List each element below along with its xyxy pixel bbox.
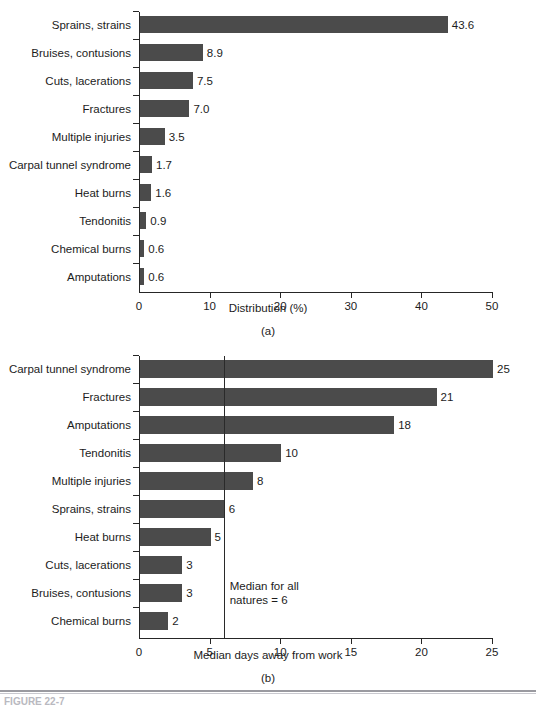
x-axis-tick [351, 639, 352, 644]
category-label: Cuts, lacerations [0, 559, 131, 571]
y-axis-tick [133, 39, 139, 40]
panel-caption-a: (a) [0, 325, 536, 337]
bar [140, 44, 203, 61]
y-axis-tick [133, 579, 139, 580]
category-label: Chemical burns [0, 615, 131, 627]
x-axis-tick [492, 293, 493, 298]
bar [140, 16, 448, 33]
bar [140, 156, 152, 173]
bar [140, 612, 168, 630]
category-label: Fractures [0, 103, 131, 115]
y-axis-tick [133, 383, 139, 384]
x-axis-line [139, 638, 493, 639]
x-axis-tick [351, 293, 352, 298]
y-axis-tick [133, 467, 139, 468]
figure-22-7: Sprains, strains43.6Bruises, contusions8… [0, 0, 536, 705]
bar-value-label: 1.6 [155, 187, 171, 199]
category-label: Heat burns [0, 187, 131, 199]
bar [140, 416, 394, 434]
bar [140, 388, 437, 406]
bar [140, 128, 165, 145]
bar [140, 184, 151, 201]
bar [140, 500, 225, 518]
bar [140, 444, 281, 462]
y-axis-tick [133, 11, 139, 12]
y-axis-tick [133, 551, 139, 552]
y-axis-tick [133, 495, 139, 496]
y-axis-tick [133, 123, 139, 124]
category-label: Fractures [0, 391, 131, 403]
y-axis-tick [133, 235, 139, 236]
bar-value-label: 1.7 [156, 159, 172, 171]
category-label: Carpal tunnel syndrome [0, 159, 131, 171]
bar-value-label: 25 [497, 363, 510, 375]
bar [140, 240, 144, 257]
category-label: Heat burns [0, 531, 131, 543]
bar-value-label: 18 [398, 419, 411, 431]
y-axis-tick [133, 179, 139, 180]
category-label: Amputations [0, 419, 131, 431]
y-axis-tick [133, 607, 139, 608]
x-axis-line [139, 292, 493, 293]
figure-divider-rule-thin [0, 693, 536, 694]
chart-panel-a: Sprains, strains43.6Bruises, contusions8… [0, 0, 536, 350]
chart-panel-b: Carpal tunnel syndrome25Fractures21Amput… [0, 350, 536, 690]
bar-value-label: 0.9 [150, 215, 166, 227]
bar-value-label: 7.0 [193, 103, 209, 115]
bar-value-label: 7.5 [197, 75, 213, 87]
bar [140, 528, 211, 546]
category-label: Sprains, strains [0, 503, 131, 515]
median-reference-line [224, 356, 225, 638]
x-axis-tick [280, 639, 281, 644]
x-axis-title-a: Distribution (%) [0, 302, 536, 314]
y-axis-tick [133, 523, 139, 524]
category-label: Carpal tunnel syndrome [0, 363, 131, 375]
category-label: Multiple injuries [0, 475, 131, 487]
bar [140, 556, 182, 574]
bar [140, 212, 146, 229]
bar-value-label: 21 [441, 391, 454, 403]
y-axis-tick [133, 95, 139, 96]
bar-value-label: 5 [215, 531, 221, 543]
bar-value-label: 3.5 [169, 131, 185, 143]
bar-value-label: 2 [172, 615, 178, 627]
y-axis-tick [133, 67, 139, 68]
bar-value-label: 3 [186, 559, 192, 571]
x-axis-tick [492, 639, 493, 644]
bar [140, 100, 189, 117]
category-label: Multiple injuries [0, 131, 131, 143]
y-axis-tick [133, 355, 139, 356]
y-axis-tick [133, 207, 139, 208]
bar-value-label: 3 [186, 587, 192, 599]
panel-caption-b: (b) [0, 672, 536, 684]
category-label: Sprains, strains [0, 19, 131, 31]
y-axis-tick [133, 263, 139, 264]
category-label: Cuts, lacerations [0, 75, 131, 87]
bar-value-label: 10 [285, 447, 298, 459]
bar [140, 472, 253, 490]
bar-value-label: 0.6 [148, 243, 164, 255]
x-axis-tick [210, 639, 211, 644]
plot-area-a: Sprains, strains43.6Bruises, contusions8… [0, 0, 536, 350]
x-axis-tick [210, 293, 211, 298]
y-axis-tick [133, 411, 139, 412]
y-axis-tick [133, 439, 139, 440]
bar [140, 360, 493, 378]
bar-value-label: 8.9 [207, 47, 223, 59]
category-label: Bruises, contusions [0, 47, 131, 59]
x-axis-title-b: Median days away from work [0, 649, 536, 661]
bar-value-label: 6 [229, 503, 235, 515]
figure-caption: FIGURE 22-7 [4, 696, 65, 705]
bar [140, 584, 182, 602]
x-axis-tick [421, 293, 422, 298]
category-label: Tendonitis [0, 447, 131, 459]
bar-value-label: 43.6 [452, 19, 474, 31]
figure-divider-rule [0, 690, 536, 692]
category-label: Amputations [0, 271, 131, 283]
y-axis-tick [133, 151, 139, 152]
bar [140, 72, 193, 89]
category-label: Chemical burns [0, 243, 131, 255]
category-label: Bruises, contusions [0, 587, 131, 599]
bar [140, 268, 144, 285]
bar-value-label: 8 [257, 475, 263, 487]
